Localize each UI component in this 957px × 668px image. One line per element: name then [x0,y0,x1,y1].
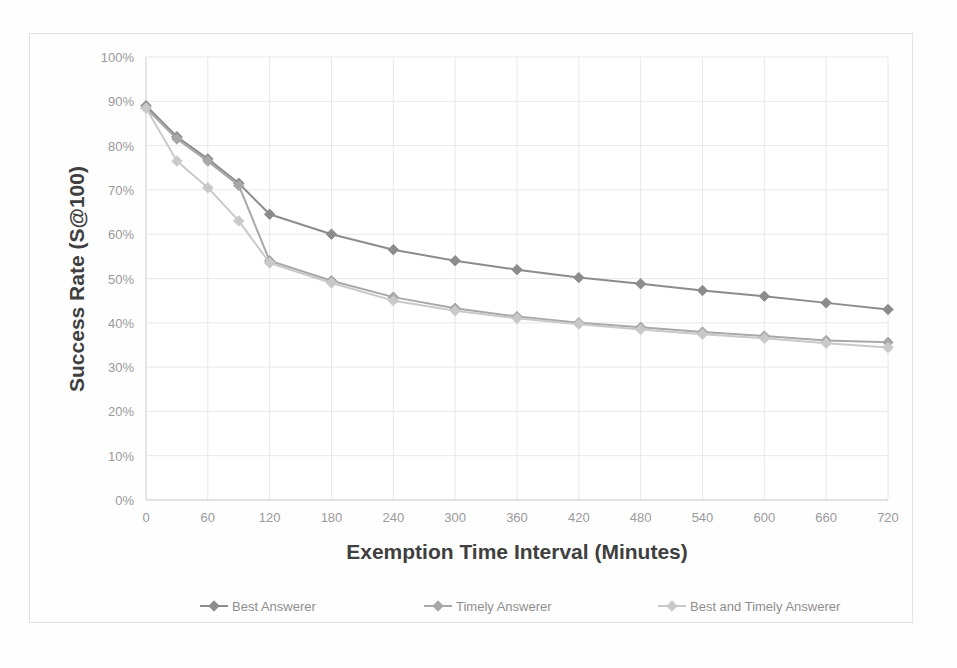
x-tick-label: 480 [630,510,652,525]
legend-label: Best Answerer [232,599,316,614]
x-tick-label: 240 [382,510,404,525]
y-tick-label: 40% [108,316,134,331]
chart-canvas: 0%10%20%30%40%50%60%70%80%90%100% 060120… [0,0,957,668]
legend-label: Timely Answerer [456,599,552,614]
x-tick-label: 720 [877,510,899,525]
x-tick-label: 660 [815,510,837,525]
y-tick-label: 50% [108,272,134,287]
y-tick-label: 30% [108,360,134,375]
legend-item-2[interactable]: Timely Answerer [424,599,552,614]
x-tick-label: 60 [201,510,215,525]
x-tick-label: 120 [259,510,281,525]
x-tick-label: 420 [568,510,590,525]
chart-legend: Best AnswererTimely AnswererBest and Tim… [200,599,841,614]
x-axis-tick-labels: 060120180240300360420480540600660720 [142,510,898,525]
y-tick-label: 70% [108,183,134,198]
x-tick-label: 540 [692,510,714,525]
y-tick-label: 20% [108,404,134,419]
y-tick-label: 60% [108,227,134,242]
y-tick-label: 0% [115,493,134,508]
legend-item-3[interactable]: Best and Timely Answerer [658,599,841,614]
legend-item-1[interactable]: Best Answerer [200,599,316,614]
y-tick-label: 100% [101,50,135,65]
legend-marker-icon [667,601,677,611]
y-axis-tick-labels: 0%10%20%30%40%50%60%70%80%90%100% [101,50,135,508]
x-tick-label: 0 [142,510,149,525]
y-tick-label: 10% [108,449,134,464]
y-tick-label: 80% [108,139,134,154]
x-tick-label: 180 [321,510,343,525]
x-tick-label: 600 [753,510,775,525]
x-tick-label: 300 [444,510,466,525]
legend-marker-icon [209,601,219,611]
x-tick-label: 360 [506,510,528,525]
legend-marker-icon [433,601,443,611]
y-axis-title: Success Rate (S@100) [65,166,88,392]
chart-figure: 0%10%20%30%40%50%60%70%80%90%100% 060120… [0,0,957,668]
y-tick-label: 90% [108,94,134,109]
legend-label: Best and Timely Answerer [690,599,841,614]
x-axis-title: Exemption Time Interval (Minutes) [346,540,688,563]
